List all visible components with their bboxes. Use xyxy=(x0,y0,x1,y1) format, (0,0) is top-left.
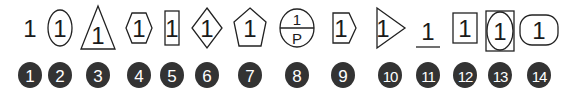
symbol-item-6: 16 xyxy=(192,8,222,88)
badge-number: 3 xyxy=(93,67,102,86)
badge-number: 14 xyxy=(532,68,547,85)
badge-number: 5 xyxy=(167,67,176,86)
badge-number: 4 xyxy=(134,67,143,86)
symbol-chart: 111213141516171P819110111112113114 xyxy=(0,0,575,95)
symbol-label: 1 xyxy=(532,17,545,44)
badge-number: 1 xyxy=(25,67,34,86)
symbol-label: 1 xyxy=(243,15,256,42)
symbol-item-2: 12 xyxy=(48,10,72,88)
symbol-item-11: 111 xyxy=(416,18,440,89)
badge-number: 9 xyxy=(338,67,347,86)
badge-number: 2 xyxy=(55,67,64,86)
number-badge: 12 xyxy=(453,62,477,88)
symbol-label: 1 xyxy=(200,15,213,42)
symbol-item-4: 14 xyxy=(126,13,152,88)
symbol-label: 1 xyxy=(91,22,104,49)
symbol-item-10: 110 xyxy=(376,8,405,88)
symbol-item-1: 11 xyxy=(18,15,42,89)
badge-number: 8 xyxy=(292,67,301,86)
symbol-label: 1 xyxy=(493,18,506,45)
number-badge: 4 xyxy=(127,62,151,88)
symbol-label: 1 xyxy=(23,15,36,42)
symbol-sublabel: P xyxy=(292,30,302,47)
badge-number: 12 xyxy=(458,68,473,85)
number-badge: 7 xyxy=(238,62,262,88)
number-badge: 6 xyxy=(195,62,219,88)
number-badge: 14 xyxy=(527,62,551,88)
symbol-item-13: 113 xyxy=(486,11,514,88)
symbol-item-3: 13 xyxy=(81,6,115,88)
badge-number: 13 xyxy=(493,68,508,85)
number-badge: 11 xyxy=(416,62,440,88)
number-badge: 2 xyxy=(48,62,72,88)
symbol-item-14: 114 xyxy=(520,15,558,88)
symbol-item-5: 15 xyxy=(160,11,184,88)
symbol-item-9: 19 xyxy=(331,13,356,88)
number-badge: 13 xyxy=(488,62,512,88)
symbol-label: 1 xyxy=(458,15,471,42)
number-badge: 10 xyxy=(378,62,402,88)
symbol-label: 1 xyxy=(334,15,347,42)
symbol-label: 1 xyxy=(132,15,145,42)
symbol-label: 1 xyxy=(165,15,178,42)
symbol-label: 1 xyxy=(293,11,301,28)
badge-number: 7 xyxy=(245,67,254,86)
number-badge: 8 xyxy=(285,62,309,88)
badge-number: 10 xyxy=(383,68,398,85)
symbol-item-12: 112 xyxy=(453,13,477,88)
symbol-item-7: 17 xyxy=(234,8,266,88)
symbol-label: 1 xyxy=(376,15,389,42)
symbol-label: 1 xyxy=(421,18,434,45)
number-badge: 3 xyxy=(86,62,110,88)
symbol-label: 1 xyxy=(53,15,66,42)
badge-number: 6 xyxy=(202,67,211,86)
number-badge: 1 xyxy=(18,62,42,88)
badge-number: 11 xyxy=(421,68,435,85)
number-badge: 5 xyxy=(160,62,184,88)
symbol-item-8: 1P8 xyxy=(280,9,314,88)
number-badge: 9 xyxy=(331,62,355,88)
